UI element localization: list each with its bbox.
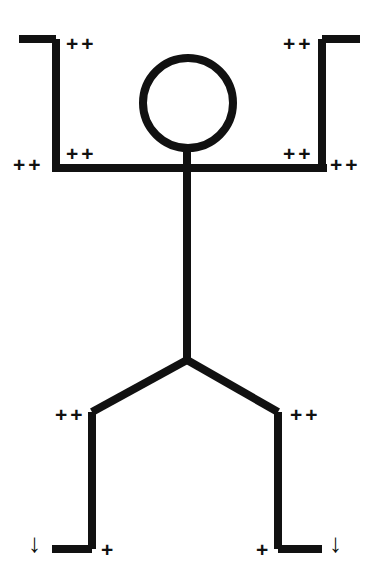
marker-right-shoulder-inner: ++ bbox=[283, 143, 314, 164]
marker-left-knee: ++ bbox=[55, 404, 86, 425]
marker-right-foot-arrow: ↓ bbox=[329, 530, 342, 556]
left-thigh bbox=[92, 360, 187, 412]
marker-left-wrist: ++ bbox=[66, 33, 97, 54]
marker-right-shoulder-outer: ++ bbox=[330, 154, 361, 175]
stick-figure-drawing bbox=[0, 0, 377, 588]
right-thigh bbox=[187, 360, 278, 412]
marker-right-knee: ++ bbox=[290, 404, 321, 425]
marker-left-ankle: + bbox=[101, 539, 113, 560]
marker-left-foot-arrow: ↓ bbox=[28, 530, 41, 556]
marker-right-ankle: + bbox=[256, 539, 268, 560]
marker-right-wrist: ++ bbox=[283, 33, 314, 54]
stick-figure-diagram: ++++++++++++++++++↓↓ bbox=[0, 0, 377, 588]
head bbox=[143, 58, 233, 148]
marker-left-shoulder-outer: ++ bbox=[13, 154, 44, 175]
marker-left-shoulder-inner: ++ bbox=[66, 143, 97, 164]
